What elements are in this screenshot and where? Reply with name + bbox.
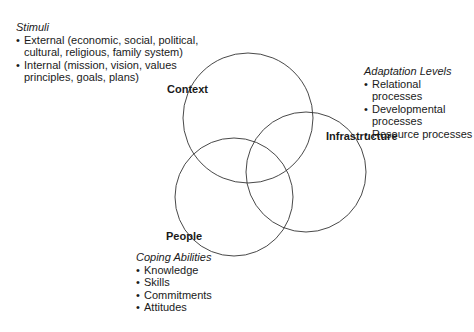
context-label: Context	[167, 83, 208, 95]
stimuli-title: Stimuli	[16, 21, 216, 34]
adaptation-block: Adaptation Levels Relational processes D…	[364, 65, 474, 140]
stimuli-block: Stimuli External (economic, social, poli…	[16, 21, 216, 84]
coping-item: Commitments	[136, 289, 256, 302]
coping-block: Coping Abilities Knowledge Skills Commit…	[136, 251, 256, 314]
coping-item: Skills	[136, 276, 256, 289]
coping-title: Coping Abilities	[136, 251, 256, 264]
infrastructure-label: Infrastructure	[326, 130, 398, 142]
stimuli-item: External (economic, social, political, c…	[16, 34, 216, 59]
stimuli-item: Internal (mission, vision, values princi…	[16, 59, 216, 84]
adaptation-title: Adaptation Levels	[364, 65, 474, 78]
adaptation-item: Relational processes	[364, 78, 474, 103]
coping-item: Knowledge	[136, 264, 256, 277]
people-label: People	[166, 230, 202, 242]
adaptation-item: Developmental processes	[364, 103, 474, 128]
coping-item: Attitudes	[136, 301, 256, 314]
